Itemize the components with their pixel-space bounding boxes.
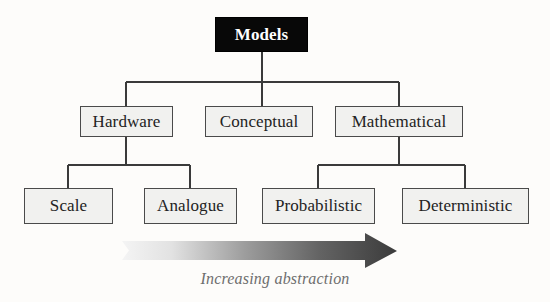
node-conceptual[interactable]: Conceptual [205, 106, 313, 137]
node-scale-label: Scale [50, 197, 87, 215]
arrow-shape [122, 233, 397, 268]
arrow-caption: Increasing abstraction [0, 270, 550, 288]
node-mathematical-label: Mathematical [352, 113, 447, 131]
node-conceptual-label: Conceptual [220, 113, 298, 131]
node-deterministic-label: Deterministic [419, 197, 513, 215]
node-hardware-label: Hardware [93, 113, 161, 131]
node-analogue-label: Analogue [157, 197, 224, 215]
model-taxonomy-diagram: Models Hardware Conceptual Mathematical … [0, 0, 550, 302]
node-probabilistic[interactable]: Probabilistic [262, 188, 375, 224]
node-models[interactable]: Models [215, 17, 308, 52]
node-deterministic[interactable]: Deterministic [402, 188, 529, 224]
node-scale[interactable]: Scale [24, 188, 113, 224]
node-mathematical[interactable]: Mathematical [335, 106, 463, 137]
node-probabilistic-label: Probabilistic [275, 197, 362, 215]
node-hardware[interactable]: Hardware [80, 106, 173, 137]
node-models-label: Models [235, 26, 288, 44]
node-analogue[interactable]: Analogue [144, 188, 237, 224]
